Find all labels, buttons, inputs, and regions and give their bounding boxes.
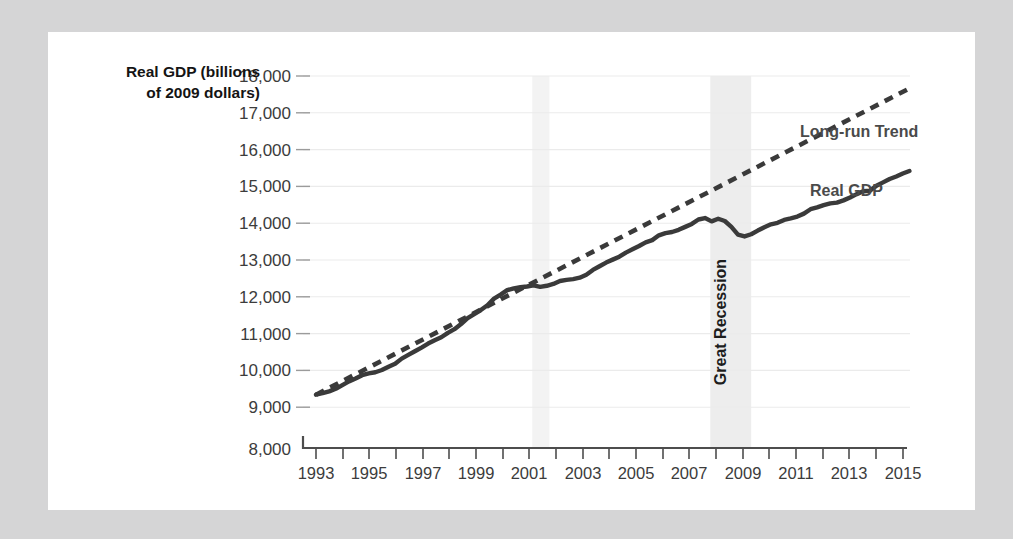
real-gdp-label: Real GDP (810, 182, 883, 199)
chart-plot-area: 18,000 17,000 16,000 15,000 14,000 13,00… (48, 32, 975, 510)
xtick-label-2005: 2005 (618, 464, 655, 482)
ytick-label-14000: 14,000 (239, 214, 291, 233)
ytick-label-15000: 15,000 (239, 177, 291, 196)
y-tick-labels: 18,000 17,000 16,000 15,000 14,000 13,00… (239, 67, 291, 459)
ytick-label-8000: 8,000 (248, 440, 291, 459)
figure-card: 18,000 17,000 16,000 15,000 14,000 13,00… (48, 32, 975, 510)
xtick-label-2007: 2007 (671, 464, 708, 482)
ytick-label-17000: 17,000 (239, 104, 291, 123)
xtick-label-1997: 1997 (405, 464, 442, 482)
ytick-label-12000: 12,000 (239, 288, 291, 307)
band-2001-recession (532, 76, 549, 448)
xtick-label-2011: 2011 (778, 464, 813, 482)
xtick-label-2001: 2001 (511, 464, 548, 482)
xtick-label-1993: 1993 (298, 464, 335, 482)
xtick-label-1995: 1995 (351, 464, 388, 482)
long-run-trend-label: Long-run Trend (800, 123, 918, 140)
y-axis-title-line2: of 2009 dollars) (146, 84, 260, 101)
xtick-label-2003: 2003 (565, 464, 602, 482)
ytick-label-10000: 10,000 (239, 361, 291, 380)
ytick-label-16000: 16,000 (239, 141, 291, 160)
xtick-label-2015: 2015 (885, 464, 922, 482)
ytick-label-13000: 13,000 (239, 251, 291, 270)
ytick-label-11000: 11,000 (240, 325, 291, 344)
xtick-label-2009: 2009 (725, 464, 762, 482)
x-tickmarks (316, 448, 903, 459)
gdp-trend-chart: 18,000 17,000 16,000 15,000 14,000 13,00… (48, 32, 975, 510)
real-gdp-line (316, 171, 909, 395)
y-tickmarks (296, 76, 310, 407)
ytick-label-9000: 9,000 (248, 398, 291, 417)
axis-lines (303, 436, 907, 448)
great-recession-label: Great Recession (712, 259, 729, 385)
xtick-label-1999: 1999 (458, 464, 495, 482)
y-axis-title-line1: Real GDP (billions (126, 63, 260, 80)
xtick-label-2013: 2013 (831, 464, 868, 482)
x-tick-labels: 1993 1995 1997 1999 2001 2003 2005 2007 … (298, 464, 922, 482)
